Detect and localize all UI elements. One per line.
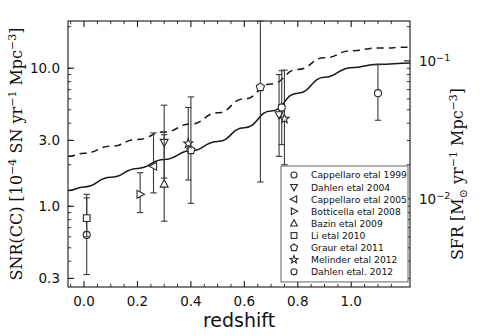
chart-root: 0.00.20.40.60.81.010.03.01.00.310−110−2 … [0, 0, 483, 336]
y-tick-label-left: 1.0 [39, 198, 60, 214]
legend-label: Cappellaro etal 1999 [311, 169, 407, 180]
legend-label: Graur etal 2011 [311, 242, 384, 253]
legend-label: Bazin etal 2009 [311, 218, 383, 229]
x-tick-label: 0.8 [287, 293, 308, 309]
legend: Cappellaro etal 1999Dahlen etal 2004Capp… [281, 166, 408, 282]
x-tick-label: 0.6 [234, 293, 255, 309]
x-tick-label: 0.4 [180, 293, 201, 309]
x-tick-label: 0.0 [73, 293, 94, 309]
legend-marker-circle [291, 269, 297, 275]
marker-circle [374, 90, 381, 97]
legend-label: Dahlen etal. 2012 [311, 266, 393, 277]
y-tick-label-left: 10.0 [30, 60, 60, 76]
x-axis-title: redshift [203, 309, 275, 331]
x-tick-label: 1.0 [340, 293, 361, 309]
y-axis-title-left: SNR(CC) [10−4 SN yr−1 Mpc−3] [6, 27, 26, 280]
y-tick-label-left: 3.0 [39, 132, 60, 148]
legend-label: Melinder etal 2012 [311, 254, 397, 265]
marker-square [83, 215, 90, 222]
y-axis-title-right: SFR [M⊙ yr−1 Mpc−3] [447, 88, 470, 260]
legend-marker-square [291, 233, 297, 239]
y-tick-label-left: 0.3 [39, 270, 60, 286]
legend-label: Li etal 2010 [311, 230, 365, 241]
legend-label: Dahlen etal 2004 [311, 182, 390, 193]
supernova-rate-plot: 0.00.20.40.60.81.010.03.01.00.310−110−2 … [0, 0, 483, 336]
legend-label: Cappellaro etal 2005 [311, 194, 407, 205]
marker-circle [278, 104, 285, 111]
x-tick-label: 0.2 [127, 293, 148, 309]
legend-marker-circle [291, 172, 297, 178]
legend-label: Botticella etal 2008 [311, 206, 401, 217]
